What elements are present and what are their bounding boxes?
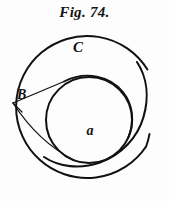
label-inner-circle: a bbox=[87, 123, 94, 138]
figure-page: Fig. 74. C a B bbox=[0, 0, 169, 201]
inner-circle-offset-arc bbox=[64, 76, 132, 138]
label-outer-circle: C bbox=[73, 39, 84, 55]
outer-circle-arc-tail bbox=[146, 134, 149, 147]
inner-circle bbox=[46, 77, 132, 163]
figure-drawing: C a B bbox=[0, 0, 169, 201]
label-vertex-point: B bbox=[16, 87, 26, 102]
outer-circle-arc-main bbox=[16, 36, 147, 178]
